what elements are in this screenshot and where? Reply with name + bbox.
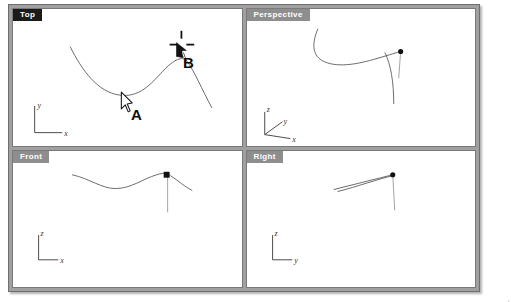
- viewport-grid: Top: [9, 5, 479, 291]
- viewport-perspective[interactable]: Perspective z y x: [246, 8, 477, 147]
- annotation-letter-b: B: [183, 55, 194, 70]
- axis-label-y: y: [293, 255, 298, 264]
- axis-indicator-front: z x: [39, 229, 65, 265]
- axis-indicator-perspective: z y x: [264, 105, 296, 144]
- control-point-perspective[interactable]: [398, 49, 403, 54]
- axis-label-x: x: [63, 129, 68, 138]
- viewport-right-canvas[interactable]: z y: [247, 151, 476, 288]
- modeling-app-window: Top: [8, 4, 480, 292]
- curve-front-view: [72, 173, 192, 190]
- tangent-handle-right: [392, 174, 394, 210]
- annotation-letter-a: A: [131, 107, 142, 122]
- axis-indicator-top: y x: [35, 101, 69, 138]
- control-point-front[interactable]: [164, 171, 170, 177]
- axis-label-z: z: [265, 105, 269, 114]
- axis-label-z: z: [40, 229, 44, 238]
- axis-label-y: y: [37, 101, 42, 110]
- axis-label-x: x: [59, 255, 64, 264]
- viewport-perspective-canvas[interactable]: z y x: [247, 9, 476, 146]
- viewport-right[interactable]: Right z y: [246, 150, 477, 289]
- control-point-right[interactable]: [390, 172, 395, 177]
- axis-label-y: y: [282, 117, 287, 126]
- viewport-front[interactable]: Front z x: [12, 150, 243, 289]
- axis-label-z: z: [273, 229, 277, 238]
- axis-label-x: x: [291, 135, 296, 144]
- viewport-top-canvas[interactable]: y x: [13, 9, 242, 146]
- curve-right-view-lower: [337, 175, 392, 191]
- figure-root: Top: [0, 0, 511, 302]
- viewport-front-canvas[interactable]: z x: [13, 151, 242, 288]
- viewport-top[interactable]: Top: [12, 8, 243, 147]
- copyright-rail: © 2014 Cengage Learning®. All Rights Res…: [496, 150, 510, 300]
- tangent-handle-perspective: [398, 52, 400, 79]
- axis-indicator-right: z y: [272, 229, 298, 265]
- curve-perspective-view-right: [384, 53, 393, 104]
- curve-right-view-upper: [333, 174, 392, 189]
